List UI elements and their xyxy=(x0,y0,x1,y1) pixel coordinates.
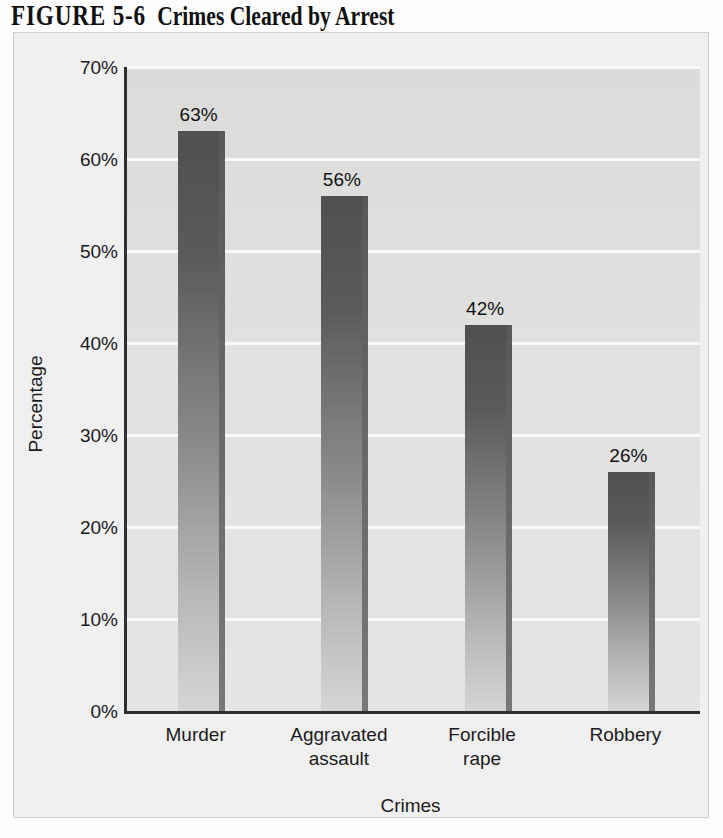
bar[interactable]: 56% xyxy=(321,196,362,711)
figure-title: FIGURE 5-6Crimes Cleared by Arrest xyxy=(11,0,571,32)
x-axis-tick-label: Murder xyxy=(124,723,267,747)
x-axis-tick-label: Forcible rape xyxy=(411,723,554,771)
y-axis-tick-label: 20% xyxy=(28,518,118,537)
y-axis-tick-label: 60% xyxy=(28,150,118,169)
bar-fill xyxy=(321,196,362,711)
figure-container: FIGURE 5-6Crimes Cleared by Arrest Perce… xyxy=(0,0,723,838)
bar-shadow-edge xyxy=(362,196,368,711)
bar-value-label: 63% xyxy=(180,105,218,124)
bar-fill xyxy=(608,472,649,711)
bar-shadow-edge xyxy=(649,472,655,711)
chart-panel: Percentage 0%10%20%30%40%50%60%70% 63%56… xyxy=(13,32,709,818)
y-axis-tick-label: 0% xyxy=(28,702,118,721)
figure-number: FIGURE 5-6 xyxy=(11,0,146,31)
x-axis-title: Crimes xyxy=(124,795,697,817)
y-axis-tick-label: 40% xyxy=(28,334,118,353)
bar-value-label: 26% xyxy=(609,446,647,465)
y-axis-tick-labels: 0%10%20%30%40%50%60%70% xyxy=(22,67,118,711)
x-axis-tick-label: Robbery xyxy=(554,723,697,747)
bar[interactable]: 26% xyxy=(608,472,649,711)
y-axis-tick-label: 30% xyxy=(28,426,118,445)
figure-caption: Crimes Cleared by Arrest xyxy=(157,1,394,31)
bar-fill xyxy=(465,325,506,711)
bar[interactable]: 42% xyxy=(465,325,506,711)
y-axis-tick-label: 70% xyxy=(28,58,118,77)
bar-fill xyxy=(178,131,219,711)
y-axis-tick-label: 10% xyxy=(28,610,118,629)
x-axis-tick-label: Aggravated assault xyxy=(267,723,410,771)
bar-value-label: 42% xyxy=(466,299,504,318)
plot-area: 63%56%42%26% xyxy=(124,67,700,714)
gridline xyxy=(127,66,700,69)
bar[interactable]: 63% xyxy=(178,131,219,711)
bar-value-label: 56% xyxy=(323,170,361,189)
y-axis-tick-label: 50% xyxy=(28,242,118,261)
bar-shadow-edge xyxy=(219,131,225,711)
bar-shadow-edge xyxy=(506,325,512,711)
